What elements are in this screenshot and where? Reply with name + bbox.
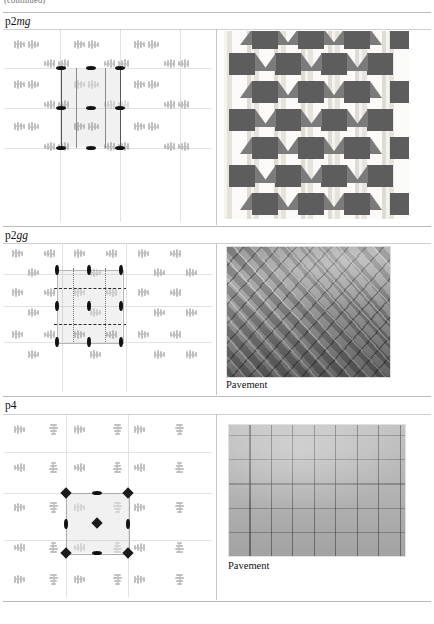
p2mg-tiling-photo — [224, 31, 409, 219]
motif — [134, 543, 145, 552]
two-fold-center — [119, 337, 123, 347]
motif — [178, 100, 189, 109]
motif — [186, 308, 197, 317]
motif — [14, 543, 25, 552]
two-fold-center — [87, 265, 91, 275]
motif — [154, 308, 165, 317]
motif — [175, 424, 184, 435]
motif — [170, 288, 181, 297]
motif — [106, 249, 117, 258]
motif — [28, 122, 39, 131]
motif — [74, 503, 85, 512]
motif — [138, 288, 149, 297]
group-label-p2gg: p2gg — [5, 229, 28, 241]
two-fold-center — [86, 146, 96, 150]
two-fold-center — [64, 519, 68, 529]
motif — [12, 330, 23, 339]
rule-above-p2mg — [3, 12, 431, 13]
two-fold-center — [92, 491, 102, 495]
p2gg-pavement-photo — [226, 246, 391, 378]
motif — [12, 249, 23, 258]
paver-shading — [229, 425, 405, 556]
motif — [88, 122, 99, 131]
column-divider-p4 — [216, 414, 217, 600]
p2gg-photo-caption: Pavement — [226, 379, 267, 390]
two-fold-center — [55, 301, 59, 311]
motif — [138, 330, 149, 339]
motif — [134, 575, 145, 584]
motif — [14, 40, 25, 49]
motif — [28, 268, 39, 277]
motif — [186, 268, 197, 277]
motif — [74, 249, 85, 258]
motif — [74, 543, 85, 552]
motif — [74, 575, 85, 584]
mirror-line-vertical — [76, 68, 77, 148]
p2gg-symmetry-diagram — [4, 244, 212, 392]
motif — [74, 463, 85, 472]
motif — [175, 462, 184, 473]
p4-symmetry-diagram — [4, 415, 212, 597]
continued-header: (continued) — [4, 0, 45, 5]
mirror-line-vertical — [105, 68, 106, 148]
group-label-p2mg: p2mg — [5, 15, 31, 27]
two-fold-center — [119, 265, 123, 275]
motif — [88, 80, 99, 89]
motif — [148, 80, 159, 89]
group-label-p4: p4 — [5, 399, 17, 411]
motif — [28, 40, 39, 49]
motif — [28, 80, 39, 89]
p4-photo-caption: Pavement — [228, 560, 269, 571]
motif — [186, 350, 197, 359]
motif — [164, 100, 175, 109]
motif — [44, 100, 55, 109]
motif — [154, 350, 165, 359]
two-fold-center — [126, 519, 130, 529]
motif — [134, 463, 145, 472]
motif — [14, 575, 25, 584]
motif — [178, 59, 189, 68]
motif — [14, 122, 25, 131]
motif — [134, 80, 145, 89]
motif — [49, 462, 58, 473]
two-fold-center — [56, 66, 66, 70]
motif — [178, 142, 189, 151]
motif — [134, 503, 145, 512]
two-fold-center — [115, 106, 125, 110]
column-divider-p2mg — [216, 29, 217, 225]
motif — [12, 288, 23, 297]
motif — [113, 502, 122, 513]
motif — [28, 350, 39, 359]
two-fold-center — [55, 265, 59, 275]
motif — [49, 424, 58, 435]
motif — [104, 59, 115, 68]
two-fold-center — [56, 146, 66, 150]
motif — [138, 249, 149, 258]
motif — [14, 80, 25, 89]
motif — [154, 268, 165, 277]
rule-bottom — [3, 601, 431, 602]
motif — [49, 574, 58, 585]
motif — [134, 40, 145, 49]
motif — [175, 574, 184, 585]
motif — [134, 122, 145, 131]
two-fold-center — [87, 301, 91, 311]
motif — [113, 424, 122, 435]
two-fold-center — [119, 301, 123, 311]
motif — [134, 425, 145, 434]
motif — [44, 142, 55, 151]
motif — [90, 350, 101, 359]
two-fold-center — [92, 551, 102, 555]
two-fold-center — [87, 337, 91, 347]
motif — [49, 542, 58, 553]
two-fold-center — [86, 66, 96, 70]
p2mg-symmetry-diagram — [4, 30, 212, 222]
two-fold-center — [115, 66, 125, 70]
motif — [113, 542, 122, 553]
motif — [14, 425, 25, 434]
motif — [175, 502, 184, 513]
motif — [14, 503, 25, 512]
rule-above-p4 — [3, 396, 431, 397]
motif — [44, 288, 55, 297]
motif — [49, 502, 58, 513]
